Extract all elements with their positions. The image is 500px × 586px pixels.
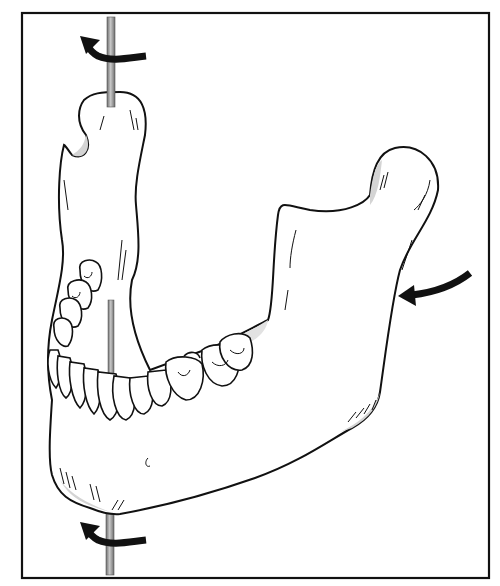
rotation-rod-middle [108, 300, 114, 378]
illustration-container [0, 0, 500, 586]
mandible-bone [48, 92, 438, 514]
mandible-illustration [0, 0, 500, 586]
side-push-arrow [398, 273, 470, 306]
